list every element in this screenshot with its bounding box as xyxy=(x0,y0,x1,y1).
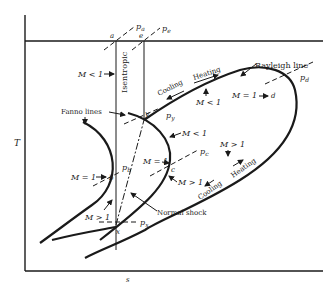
pressure-pd: pd xyxy=(300,73,309,83)
cooling-upper-label: Cooling xyxy=(156,78,184,98)
pressure-px: px xyxy=(140,218,149,228)
m-lt-1-fanno-arrow xyxy=(170,133,181,137)
m-gt-1-c-label: M > 1 xyxy=(177,178,203,187)
isobar-pa xyxy=(104,27,134,50)
y-axis-label: T xyxy=(14,138,21,148)
m-gt-1-x-arrow xyxy=(104,200,112,210)
m-eq-1-c-label: M = 1 xyxy=(142,157,168,166)
pressure-pb: pb xyxy=(122,163,131,173)
pressure-pc: pc xyxy=(200,147,209,157)
m-lt-1-left-label: M < 1 xyxy=(77,70,103,79)
t-s-diagram: T s a e y b c d x pa pe py pb pc pd px I… xyxy=(0,0,323,286)
m-eq-1-d-label: M = 1 xyxy=(231,91,257,100)
m-lt-1-rayleigh-label: M < 1 xyxy=(195,98,221,107)
fanno-lines-label: Fanno lines xyxy=(61,108,102,116)
point-x: x xyxy=(116,228,120,236)
fanno-lines-arrow-right xyxy=(109,112,125,115)
rayleigh-line-label: Rayleigh line xyxy=(255,61,308,70)
pressure-pa: pa xyxy=(136,22,145,32)
m-eq-1-b-label: M = 1 xyxy=(70,173,96,182)
point-a: a xyxy=(110,32,114,40)
normal-shock-label: Normal shock xyxy=(157,209,207,217)
isobar-pe xyxy=(132,28,160,50)
pressure-py: py xyxy=(166,111,175,122)
heating-lower-label: Heating xyxy=(230,156,258,179)
isentropic-label: Isentropic xyxy=(120,51,129,93)
point-b: b xyxy=(109,174,114,182)
m-gt-1-c-arrow xyxy=(169,176,177,182)
m-lt-1-fanno-label: M < 1 xyxy=(181,129,207,138)
x-axis-label: s xyxy=(126,276,130,284)
point-c: c xyxy=(171,166,175,174)
point-e: e xyxy=(139,32,143,40)
pressure-pe: pe xyxy=(162,24,171,34)
isobar-py xyxy=(124,108,160,124)
point-d: d xyxy=(271,92,276,100)
rayleigh-line-lower xyxy=(52,227,116,240)
fanno-line-left xyxy=(40,122,113,243)
m-gt-1-rayleigh-label: M > 1 xyxy=(219,140,245,149)
m-gt-1-x-label: M > 1 xyxy=(84,213,110,222)
